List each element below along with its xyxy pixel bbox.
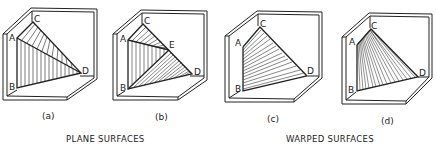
panel-c: A C B D (c): [225, 11, 322, 124]
point-label-d: D: [419, 68, 426, 78]
surface-elements: [243, 30, 304, 89]
surfaces-figure: A C B D (a): [0, 0, 436, 145]
point-label-a: A: [235, 38, 242, 48]
panel-b: A C E B D (b): [113, 10, 207, 122]
hatch-diagonal-bottom: [134, 53, 190, 87]
hatch-diagonal: [22, 24, 72, 68]
caption-d: (d): [381, 116, 394, 126]
caption-c: (c): [267, 114, 279, 124]
point-label-d: D: [307, 66, 314, 76]
caption-b: (b): [155, 112, 168, 122]
corner-frame: [342, 13, 432, 104]
point-label-c: C: [371, 21, 377, 31]
hatch-vertical: [21, 40, 77, 87]
point-label-b: B: [120, 83, 126, 93]
point-label-a: A: [349, 37, 356, 47]
point-label-b: B: [9, 82, 15, 92]
point-label-d: D: [82, 66, 89, 76]
group-label-warped: WARPED SURFACES: [286, 134, 374, 144]
warped-surface-outline: [243, 27, 307, 91]
point-label-e: E: [169, 40, 175, 50]
point-label-c: C: [144, 16, 150, 26]
panel-a: A C B D (a): [3, 8, 97, 121]
point-label-d: D: [194, 67, 201, 77]
point-label-c: C: [260, 19, 266, 29]
point-label-b: B: [235, 84, 241, 94]
group-label-plane: PLANE SURFACES: [66, 134, 145, 144]
surface-elements: [358, 29, 415, 90]
point-label-c: C: [34, 14, 40, 24]
point-label-a: A: [9, 33, 16, 43]
point-label-b: B: [348, 85, 354, 95]
panel-d: A C B D (d): [342, 13, 432, 126]
caption-a: (a): [42, 111, 55, 121]
point-label-a: A: [120, 34, 127, 44]
